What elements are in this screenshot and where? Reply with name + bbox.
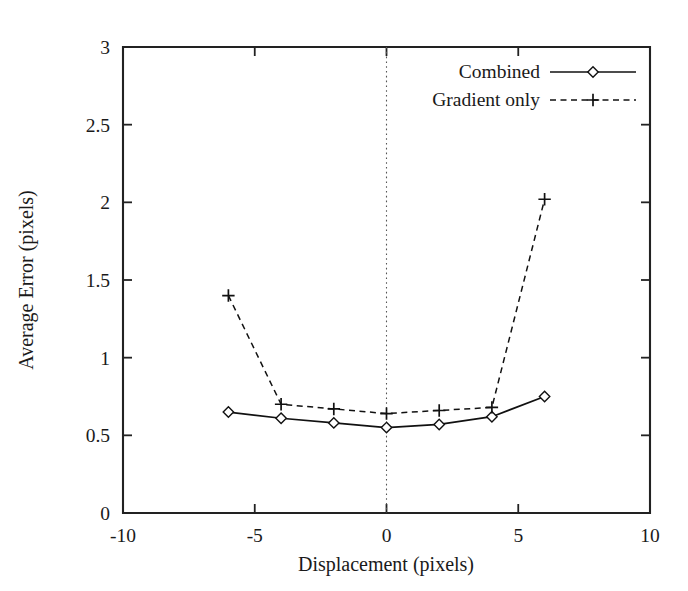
x-tick-label: -10 — [110, 525, 136, 546]
data-point-marker — [434, 419, 444, 429]
data-point-marker — [329, 418, 339, 428]
line-chart-canvas: 00.511.522.53 -10-50510 Displacement (pi… — [0, 0, 688, 591]
x-tick-label: 5 — [513, 525, 523, 546]
y-tick-label: 1.5 — [86, 270, 110, 291]
y-tick-label: 2.5 — [86, 115, 110, 136]
y-tick-label: 0.5 — [86, 425, 110, 446]
chart-figure: 00.511.522.53 -10-50510 Displacement (pi… — [0, 0, 688, 591]
x-axis-title: Displacement (pixels) — [298, 553, 474, 576]
x-tick-label: 10 — [640, 525, 660, 546]
legend-label-1: Combined — [459, 61, 540, 82]
data-point-marker — [587, 94, 599, 106]
y-tick-label: 0 — [100, 503, 110, 524]
x-axis-ticks: -10-50510 — [110, 47, 660, 546]
y-tick-label: 1 — [100, 348, 110, 369]
y-axis-title: Average Error (pixels) — [15, 190, 38, 370]
y-tick-label: 3 — [100, 37, 110, 58]
legend: CombinedGradient only — [432, 61, 636, 110]
data-point-marker — [223, 407, 233, 417]
y-axis-ticks: 00.511.522.53 — [86, 37, 650, 524]
data-point-marker — [380, 407, 392, 419]
y-tick-label: 2 — [100, 192, 110, 213]
data-point-marker — [328, 403, 340, 415]
plot-frame — [123, 47, 650, 513]
data-point-marker — [222, 289, 234, 301]
data-point-marker — [538, 193, 550, 205]
data-point-marker — [486, 401, 498, 413]
series-layer — [222, 193, 551, 433]
legend-label-2: Gradient only — [432, 89, 540, 110]
data-point-marker — [381, 422, 391, 432]
x-tick-label: -5 — [247, 525, 263, 546]
data-point-marker — [275, 398, 287, 410]
data-point-marker — [539, 391, 549, 401]
data-point-marker — [276, 413, 286, 423]
x-tick-label: 0 — [382, 525, 392, 546]
data-point-marker — [588, 67, 598, 77]
data-point-marker — [433, 404, 445, 416]
